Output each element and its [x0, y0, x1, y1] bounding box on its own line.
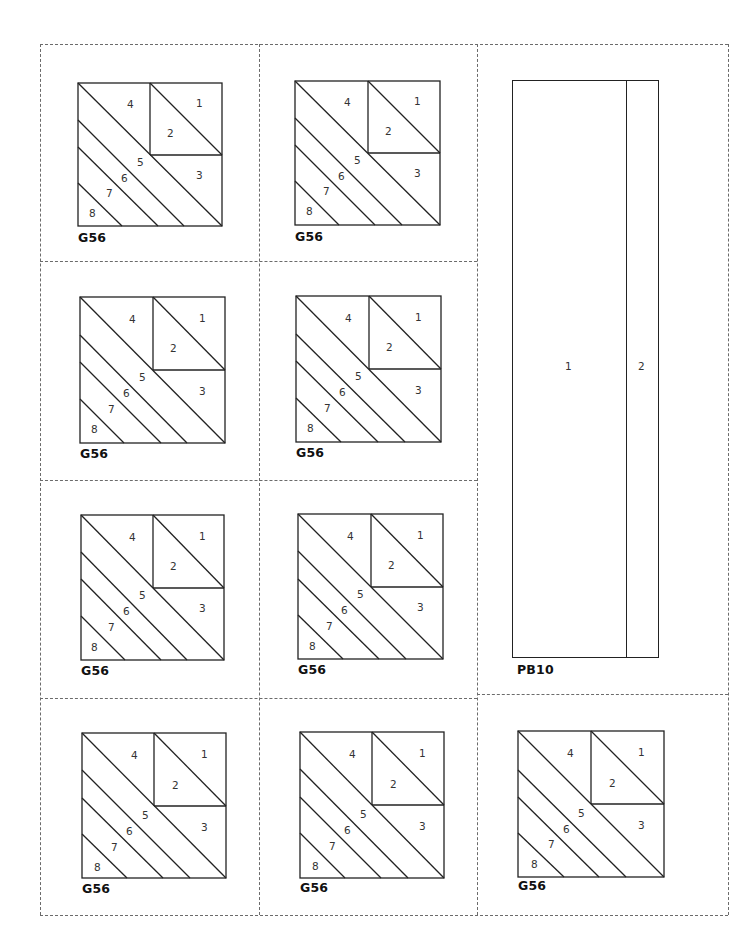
cut-line-row-3: [40, 698, 477, 699]
piece-8: 8: [531, 858, 538, 870]
piece-1: 1: [196, 97, 203, 109]
piece-3: 3: [419, 820, 426, 832]
block-label: G56: [78, 230, 106, 245]
piece-1: 1: [565, 360, 572, 372]
piece-2: 2: [385, 125, 392, 137]
piece-4: 4: [129, 531, 136, 543]
piece-6: 6: [126, 825, 133, 837]
piece-8: 8: [307, 422, 314, 434]
piece-3: 3: [199, 385, 206, 397]
piece-5: 5: [137, 156, 144, 168]
piece-2: 2: [390, 778, 397, 790]
piece-2: 2: [388, 559, 395, 571]
piece-8: 8: [91, 423, 98, 435]
piece-1: 1: [414, 95, 421, 107]
piece-3: 3: [414, 167, 421, 179]
piece-5: 5: [357, 588, 364, 600]
cut-line-row-2: [40, 480, 477, 481]
pb10-divider: [626, 81, 627, 657]
piece-5: 5: [355, 370, 362, 382]
g56-diagram: 4 1 2 3 5 6 7 8: [80, 297, 225, 443]
piece-3: 3: [415, 384, 422, 396]
piece-1: 1: [417, 529, 424, 541]
block-label: G56: [298, 662, 326, 677]
piece-4: 4: [344, 96, 351, 108]
piece-6: 6: [338, 170, 345, 182]
piece-4: 4: [345, 312, 352, 324]
cut-line-col-2: [477, 44, 478, 915]
block-label: G56: [82, 881, 110, 896]
piece-8: 8: [306, 205, 313, 217]
piece-6: 6: [339, 386, 346, 398]
piece-6: 6: [123, 387, 130, 399]
pb10-outline: [512, 80, 659, 658]
piece-5: 5: [139, 371, 146, 383]
cut-line-right-row: [477, 694, 728, 695]
piece-8: 8: [89, 207, 96, 219]
block-label: G56: [80, 446, 108, 461]
piece-3: 3: [196, 169, 203, 181]
piece-5: 5: [360, 808, 367, 820]
piece-7: 7: [324, 402, 331, 414]
g56-diagram: 4 1 2 3 5 6 7 8: [298, 514, 444, 660]
piece-4: 4: [131, 749, 138, 761]
piece-6: 6: [563, 823, 570, 835]
piece-1: 1: [415, 311, 422, 323]
piece-7: 7: [548, 838, 555, 850]
piece-1: 1: [419, 747, 426, 759]
cut-line-bottom: [40, 915, 728, 916]
cut-line-row-1: [40, 261, 477, 262]
piece-4: 4: [129, 313, 136, 325]
piece-7: 7: [326, 620, 333, 632]
piece-3: 3: [417, 601, 424, 613]
piece-5: 5: [354, 154, 361, 166]
g56-diagram: 4 1 2 3 5 6 7 8: [518, 731, 664, 877]
g56-diagram: 4 1 2 3 5 6 7 8: [295, 81, 440, 226]
piece-6: 6: [344, 824, 351, 836]
piece-2: 2: [386, 341, 393, 353]
pattern-sheet: 4 1 2 3 5 6 7 8 G56 4 1 2: [0, 0, 733, 943]
piece-6: 6: [341, 604, 348, 616]
piece-3: 3: [201, 821, 208, 833]
piece-4: 4: [567, 747, 574, 759]
block-label: G56: [81, 663, 109, 678]
block-label: G56: [296, 445, 324, 460]
piece-7: 7: [329, 840, 336, 852]
piece-2: 2: [167, 127, 174, 139]
strip-label: PB10: [517, 662, 554, 677]
g56-diagram: 4 1 2 3 5 6 7 8: [78, 83, 223, 228]
piece-4: 4: [127, 98, 134, 110]
piece-3: 3: [638, 819, 645, 831]
piece-1: 1: [201, 748, 208, 760]
piece-1: 1: [638, 746, 645, 758]
piece-1: 1: [199, 312, 206, 324]
g56-diagram: 4 1 2 3 5 6 7 8: [81, 515, 226, 661]
g56-diagram: 4 1 2 3 5 6 7 8: [300, 732, 446, 878]
piece-5: 5: [578, 807, 585, 819]
piece-8: 8: [312, 860, 319, 872]
g56-diagram: 4 1 2 3 5 6 7 8: [82, 733, 228, 879]
cut-line-right: [728, 44, 729, 915]
pattern-strip-pb10: 1 2 PB10: [512, 80, 659, 658]
piece-7: 7: [106, 187, 113, 199]
piece-7: 7: [108, 621, 115, 633]
piece-2: 2: [170, 560, 177, 572]
piece-8: 8: [91, 641, 98, 653]
piece-7: 7: [111, 841, 118, 853]
block-label: G56: [295, 229, 323, 244]
piece-6: 6: [123, 605, 130, 617]
g56-diagram: 4 1 2 3 5 6 7 8: [296, 296, 442, 442]
piece-2: 2: [170, 342, 177, 354]
block-label: G56: [300, 880, 328, 895]
block-label: G56: [518, 878, 546, 893]
piece-8: 8: [309, 640, 316, 652]
piece-2: 2: [172, 779, 179, 791]
piece-4: 4: [347, 530, 354, 542]
piece-8: 8: [94, 861, 101, 873]
piece-3: 3: [199, 602, 206, 614]
piece-2: 2: [638, 360, 645, 372]
piece-5: 5: [139, 589, 146, 601]
piece-2: 2: [609, 777, 616, 789]
piece-4: 4: [349, 748, 356, 760]
piece-7: 7: [323, 185, 330, 197]
